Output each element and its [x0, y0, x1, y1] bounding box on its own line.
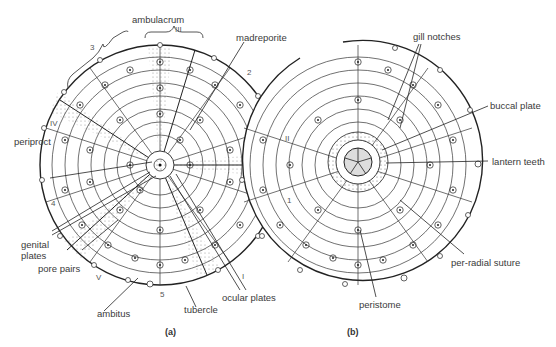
diagram-artwork: [0, 0, 556, 347]
label-ambulacrum: ambulacrum: [132, 14, 184, 25]
numeral-I: I: [242, 272, 244, 281]
label-buccal-plate: buccal plate: [490, 100, 541, 111]
numeral-III: III: [175, 25, 182, 34]
interambulacrum-4: 4: [51, 199, 55, 208]
label-madreporite: madreporite: [236, 32, 287, 43]
label-periproct: periproct: [14, 136, 51, 147]
label-ambitus: ambitus: [97, 308, 130, 319]
numeral-V: V: [96, 273, 101, 282]
panel-caption-a: (a): [165, 327, 176, 337]
echinoid-test-diagram: ambulacrum III madreporite 3 2 II 1 IV p…: [0, 0, 556, 347]
interambulacrum-2: 2: [247, 68, 251, 77]
label-genital-plates: genital plates: [21, 239, 61, 261]
interambulacrum-1: 1: [287, 196, 291, 205]
label-peristome: peristome: [359, 299, 401, 310]
panel-caption-b: (b): [347, 327, 359, 337]
interambulacrum-3: 3: [90, 43, 94, 52]
label-ocular-plates: ocular plates: [222, 292, 276, 303]
numeral-II: II: [285, 134, 289, 143]
label-lantern-teeth: lantern teeth: [492, 156, 545, 167]
label-gill-notches: gill notches: [413, 31, 461, 42]
numeral-IV: IV: [50, 119, 58, 128]
interambulacrum-5: 5: [160, 290, 164, 299]
label-tubercle: tubercle: [184, 304, 218, 315]
label-pore-pairs: pore pairs: [38, 263, 80, 274]
label-per-radial-suture: per-radial suture: [451, 257, 520, 268]
